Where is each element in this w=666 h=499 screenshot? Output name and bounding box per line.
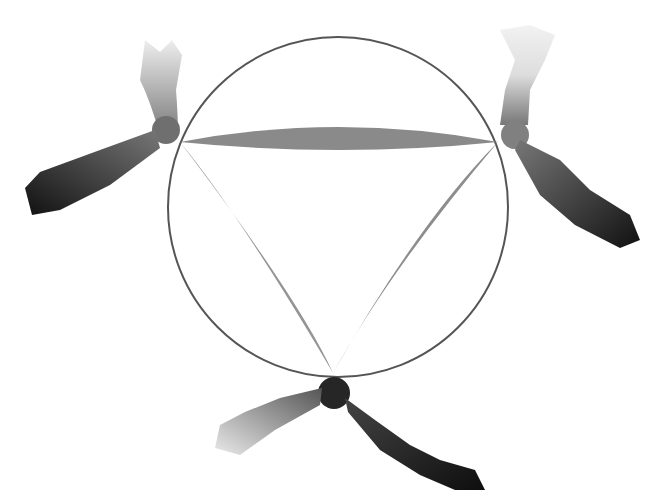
leaf-right [333, 142, 498, 373]
ink-diagram [0, 0, 666, 499]
arm-top-left [25, 40, 182, 215]
leaf-top [180, 127, 498, 150]
outer-circle [168, 37, 508, 377]
arm-top-right [500, 25, 640, 248]
leaf-left [180, 142, 333, 373]
arm-bottom [215, 377, 485, 490]
